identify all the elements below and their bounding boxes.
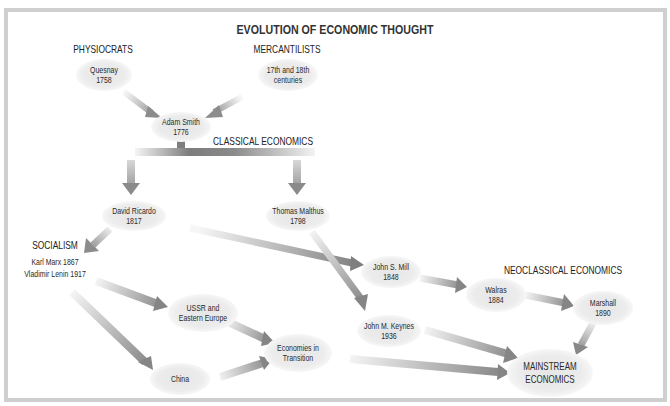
label-mercantilists-line2: centuries: [274, 75, 302, 85]
label-walras-year: 1884: [488, 295, 504, 305]
label-ricardo-year: 1817: [126, 216, 141, 226]
section-socialism: SOCIALISM: [32, 239, 78, 251]
label-mill-year: 1848: [383, 272, 398, 282]
diagram-title: EVOLUTION OF ECONOMIC THOUGHT: [237, 22, 435, 37]
section-classical-economics: CLASSICAL ECONOMICS: [213, 135, 313, 147]
arrow-classical-to-malthus: [288, 160, 306, 195]
label-malthus-year: 1798: [290, 216, 305, 226]
arrow-keynes-to-mainstream: [425, 330, 518, 363]
label-quesnay-name: Quesnay: [90, 65, 118, 75]
label-marx: Karl Marx 1867: [31, 257, 78, 267]
label-ricardo-name: David Ricardo: [112, 206, 156, 216]
arrow-quesnay-to-smith: [124, 92, 162, 118]
label-keynes-year: 1936: [381, 331, 396, 341]
label-mainstream-line1: MAINSTREAM: [523, 361, 576, 372]
arrow-china-to-transition: [220, 356, 273, 377]
label-mainstream-line2: ECONOMICS: [525, 374, 574, 385]
arrow-ussr-to-transition: [226, 321, 275, 346]
label-china: China: [171, 374, 190, 384]
arrow-socialism-to-ussr: [96, 281, 168, 311]
arrow-malthus-to-keynes: [312, 232, 368, 311]
arrow-classical-to-ricardo: [122, 160, 140, 195]
arrows: [72, 92, 593, 380]
label-malthus-name: Thomas Malthus: [272, 206, 324, 216]
arrow-walras-to-marshall: [525, 294, 574, 311]
arrow-mill-to-walras: [420, 277, 467, 293]
classical-bar: [135, 148, 315, 156]
section-physiocrats: PHYSIOCRATS: [73, 43, 133, 55]
arrow-socialism-to-china: [72, 292, 153, 370]
nodes: [76, 59, 633, 397]
label-lenin: Vladimir Lenin 1917: [24, 269, 86, 279]
economic-thought-diagram: EVOLUTION OF ECONOMIC THOUGHT PHYSIOCRAT…: [0, 0, 670, 406]
section-neoclassical-economics: NEOCLASSICAL ECONOMICS: [504, 264, 622, 276]
arrow-transition-to-mainstream: [350, 359, 510, 380]
label-smith-year: 1776: [173, 127, 188, 137]
label-keynes-name: John M. Keynes: [364, 321, 414, 331]
label-transition-line1: Economies in: [277, 343, 319, 353]
arrow-marshall-to-mainstream: [573, 323, 593, 355]
arrow-mercantilists-to-smith: [205, 97, 242, 118]
section-mercantilists: MERCANTILISTS: [253, 43, 320, 55]
label-mercantilists-line1: 17th and 18th: [267, 65, 310, 75]
arrow-ricardo-to-socialism: [84, 229, 110, 253]
label-ussr-line2: Eastern Europe: [179, 313, 227, 323]
label-marshall-year: 1890: [595, 308, 611, 318]
label-quesnay-year: 1758: [96, 75, 111, 85]
label-smith-name: Adam Smith: [162, 117, 200, 127]
label-marshall-name: Marshall: [590, 298, 617, 308]
label-walras-name: Walras: [485, 285, 507, 295]
label-ussr-line1: USSR and: [187, 303, 220, 313]
node-mainstream-economics: [507, 349, 593, 397]
label-mill-name: John S. Mill: [373, 262, 409, 272]
label-transition-line2: Transition: [283, 353, 313, 363]
